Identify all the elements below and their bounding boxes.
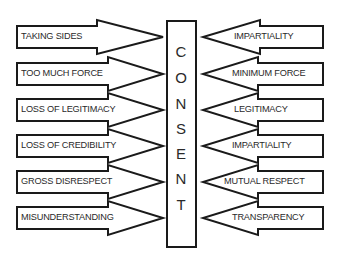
consent-letter-c: C <box>166 44 196 59</box>
right-arrows <box>203 20 323 235</box>
label-too-much-force: TOO MUCH FORCE <box>21 69 103 78</box>
label-misunderstanding: MISUNDERSTANDING <box>21 213 114 222</box>
consent-letter-e: E <box>166 146 196 161</box>
label-loss-of-legitimacy: LOSS OF LEGITIMACY <box>21 105 115 114</box>
label-loss-of-credibility: LOSS OF CREDIBILITY <box>21 141 116 150</box>
consent-letter-n2: N <box>166 171 196 186</box>
label-legitimacy: LEGITIMACY <box>234 105 288 114</box>
label-transparency: TRANSPARENCY <box>232 213 304 222</box>
label-impartiality-1: IMPARTIALITY <box>234 32 294 41</box>
label-mutual-respect: MUTUAL RESPECT <box>224 177 305 186</box>
consent-letter-s: S <box>166 121 196 136</box>
consent-letter-o: O <box>166 70 196 85</box>
label-taking-sides: TAKING SIDES <box>21 32 82 41</box>
consent-letter-n: N <box>166 96 196 111</box>
label-impartiality-2: IMPARTIALITY <box>232 141 292 150</box>
label-gross-disrespect: GROSS DISRESPECT <box>21 177 112 186</box>
label-minimum-force: MINIMUM FORCE <box>232 69 305 78</box>
consent-letter-t: T <box>166 197 196 212</box>
left-arrows <box>17 20 163 235</box>
